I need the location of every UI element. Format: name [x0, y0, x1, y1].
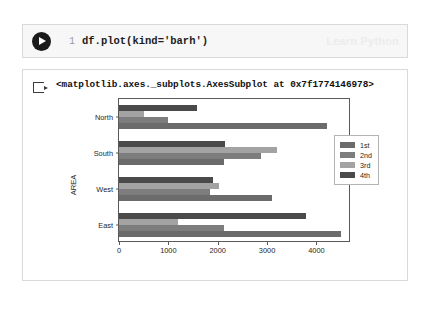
bar-north-2nd	[119, 117, 168, 123]
bars-layer	[119, 99, 349, 241]
x-tick-mark	[316, 241, 317, 245]
output-arrow-icon	[33, 82, 44, 93]
y-tick-mark	[116, 117, 120, 118]
bar-east-3rd	[119, 219, 178, 225]
chart-legend: 1st2nd3rd4th	[334, 135, 379, 185]
bar-south-4th	[119, 141, 225, 147]
x-tick-label: 2000	[209, 246, 225, 255]
bar-east-2nd	[119, 225, 224, 231]
play-icon[interactable]	[32, 32, 51, 51]
legend-swatch-4th	[340, 172, 355, 178]
output-cell: <matplotlib.axes._subplots.AxesSubplot a…	[22, 69, 408, 281]
bar-south-3rd	[119, 147, 277, 153]
bar-west-4th	[119, 177, 213, 183]
bar-north-4th	[119, 105, 197, 111]
legend-swatch-3rd	[340, 162, 355, 168]
code-input[interactable]: df.plot(kind='barh')	[82, 35, 208, 47]
bar-west-1st	[119, 195, 272, 201]
y-tick-label-west: West	[96, 185, 113, 194]
y-tick-label-east: East	[98, 221, 113, 230]
bar-north-3rd	[119, 111, 144, 117]
y-axis-label: AREA	[69, 175, 78, 196]
legend-label-4th: 4th	[360, 171, 370, 180]
y-tick-label-north: North	[95, 113, 113, 122]
output-repr-text: <matplotlib.axes._subplots.AxesSubplot a…	[56, 79, 374, 90]
plot-area: NorthSouthWestEast01000200030004000	[118, 98, 350, 242]
watermark-text: Learn Python	[326, 35, 399, 47]
bar-south-2nd	[119, 153, 261, 159]
legend-swatch-2nd	[340, 152, 355, 158]
legend-label-1st: 1st	[360, 141, 370, 150]
legend-item-1st: 1st	[340, 140, 372, 150]
x-tick-mark	[267, 241, 268, 245]
y-tick-mark	[116, 153, 120, 154]
bar-west-2nd	[119, 189, 210, 195]
legend-item-4th: 4th	[340, 170, 372, 180]
x-tick-mark	[119, 241, 120, 245]
bar-north-1st	[119, 123, 327, 129]
x-tick-mark	[168, 241, 169, 245]
legend-swatch-1st	[340, 142, 355, 148]
legend-item-2nd: 2nd	[340, 150, 372, 160]
x-tick-label: 4000	[308, 246, 324, 255]
y-tick-label-south: South	[94, 149, 113, 158]
x-tick-label: 3000	[259, 246, 275, 255]
notebook-page: 1 df.plot(kind='barh') Learn Python <mat…	[0, 0, 430, 311]
bar-west-3rd	[119, 183, 219, 189]
bar-south-1st	[119, 159, 224, 165]
y-tick-mark	[116, 225, 120, 226]
matplotlib-figure: AREA NorthSouthWestEast01000200030004000…	[55, 95, 385, 275]
code-cell[interactable]: 1 df.plot(kind='barh') Learn Python	[22, 24, 408, 58]
y-tick-mark	[116, 189, 120, 190]
legend-item-3rd: 3rd	[340, 160, 372, 170]
legend-label-3rd: 3rd	[360, 161, 370, 170]
code-line-number: 1	[69, 36, 75, 47]
x-tick-label: 1000	[160, 246, 176, 255]
bar-east-1st	[119, 231, 341, 237]
bar-east-4th	[119, 213, 306, 219]
x-tick-mark	[218, 241, 219, 245]
x-tick-label: 0	[117, 246, 121, 255]
legend-label-2nd: 2nd	[360, 151, 372, 160]
